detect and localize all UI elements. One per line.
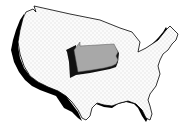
us-map (0, 0, 191, 131)
us-map-svg (0, 0, 191, 131)
